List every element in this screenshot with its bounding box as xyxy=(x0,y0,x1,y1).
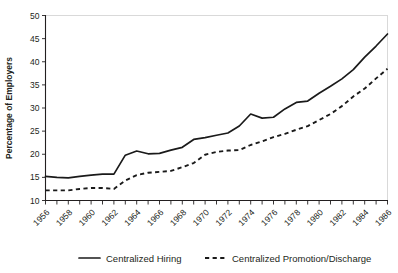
legend-label-centralized-promotion-discharge: Centralized Promotion/Discharge xyxy=(232,253,371,264)
y-tick-label-15: 15 xyxy=(30,172,40,182)
y-tick-label-20: 20 xyxy=(30,149,40,159)
y-tick-label-35: 35 xyxy=(30,80,40,90)
figure-background xyxy=(0,0,398,273)
y-tick-label-10: 10 xyxy=(30,196,40,206)
y-axis-title: Percentage of Employers xyxy=(4,57,14,159)
y-tick-label-30: 30 xyxy=(30,103,40,113)
legend-label-centralized-hiring: Centralized Hiring xyxy=(106,253,182,264)
y-axis-tick-labels: 101520253035404550 xyxy=(30,11,40,206)
y-tick-label-25: 25 xyxy=(30,126,40,136)
chart-figure: 101520253035404550 195619581960196219641… xyxy=(0,0,398,273)
y-tick-label-50: 50 xyxy=(30,11,40,21)
y-tick-label-45: 45 xyxy=(30,34,40,44)
y-tick-label-40: 40 xyxy=(30,57,40,67)
